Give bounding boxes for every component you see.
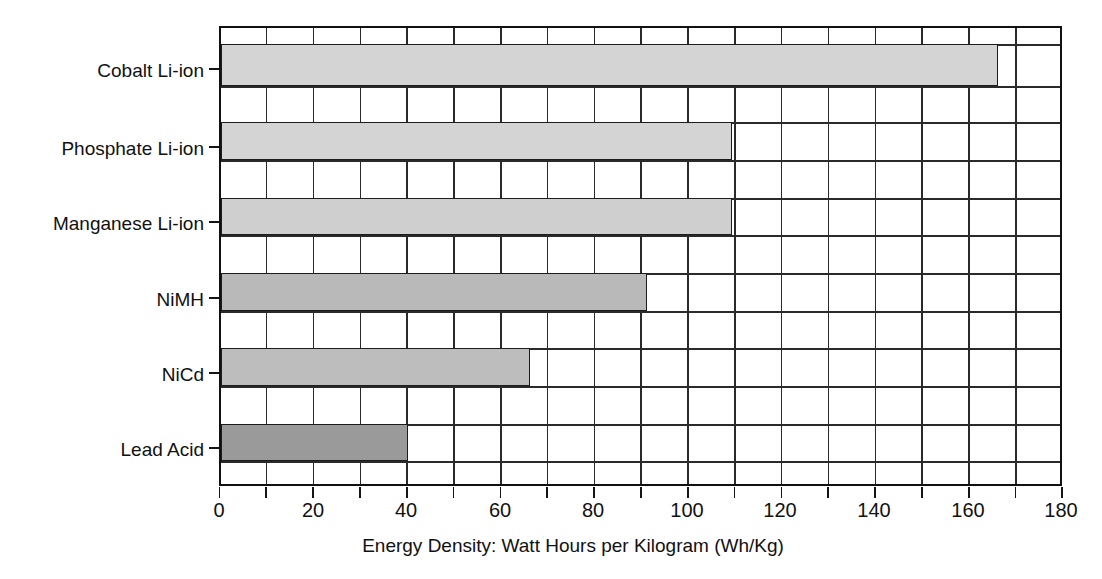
bar-lead-acid — [221, 424, 408, 461]
x-axis-tick-40 — [406, 487, 408, 498]
y-axis-tick-nicd — [209, 372, 219, 374]
bars — [221, 28, 1060, 484]
bar-nimh — [221, 273, 647, 311]
x-axis-tick-60 — [500, 487, 502, 498]
x-axis-tick-10 — [265, 487, 267, 498]
x-axis-label-120: 120 — [750, 500, 810, 520]
x-axis-tick-180 — [1061, 487, 1063, 498]
x-axis-label-140: 140 — [844, 500, 904, 520]
bar-phosphate-li-ion — [221, 122, 732, 160]
x-axis-label-80: 80 — [563, 500, 623, 520]
y-axis-label-cobalt-li-ion: Cobalt Li-ion — [97, 61, 204, 80]
x-axis-label-180: 180 — [1031, 500, 1091, 520]
y-axis-tick-lead-acid — [209, 447, 219, 449]
y-axis-tick-nimh — [209, 297, 219, 299]
x-axis-tick-20 — [312, 487, 314, 498]
x-axis-tick-0 — [219, 487, 221, 498]
x-axis-tick-90 — [640, 487, 642, 498]
y-axis-tick-manganese-li-ion — [209, 221, 219, 223]
y-axis-label-phosphate-li-ion: Phosphate Li-ion — [61, 139, 204, 158]
x-axis-tick-140 — [874, 487, 876, 498]
y-axis-label-manganese-li-ion: Manganese Li-ion — [53, 214, 204, 233]
y-axis-tick-cobalt-li-ion — [209, 68, 219, 70]
x-axis-label-20: 20 — [283, 500, 343, 520]
x-axis-tick-150 — [921, 487, 923, 498]
bar-nicd — [221, 348, 530, 386]
x-axis-tick-160 — [968, 487, 970, 498]
x-axis-tick-170 — [1015, 487, 1017, 498]
x-axis-label-0: 0 — [189, 500, 249, 520]
x-axis-title: Energy Density: Watt Hours per Kilogram … — [0, 535, 1102, 557]
energy-density-bar-chart: Cobalt Li-ion Phosphate Li-ion Manganese… — [0, 0, 1102, 579]
x-axis-title-text: Energy Density: Watt Hours per Kilogram … — [362, 535, 784, 557]
x-axis-tick-70 — [546, 487, 548, 498]
y-axis-label-lead-acid: Lead Acid — [121, 440, 204, 459]
x-axis-tick-50 — [453, 487, 455, 498]
y-axis-tick-phosphate-li-ion — [209, 146, 219, 148]
x-axis-label-60: 60 — [470, 500, 530, 520]
x-axis-tick-120 — [781, 487, 783, 498]
x-axis-tick-30 — [359, 487, 361, 498]
plot-area — [219, 26, 1062, 486]
x-axis-tick-130 — [827, 487, 829, 498]
x-axis-label-160: 160 — [938, 500, 998, 520]
bar-cobalt-li-ion — [221, 44, 998, 86]
x-axis-label-100: 100 — [657, 500, 717, 520]
x-axis-tick-80 — [593, 487, 595, 498]
bar-manganese-li-ion — [221, 198, 732, 235]
x-axis-tick-100 — [687, 487, 689, 498]
x-axis-label-40: 40 — [376, 500, 436, 520]
y-axis-label-nicd: NiCd — [162, 365, 204, 384]
y-axis-label-nimh: NiMH — [157, 290, 205, 309]
x-axis-tick-110 — [734, 487, 736, 498]
